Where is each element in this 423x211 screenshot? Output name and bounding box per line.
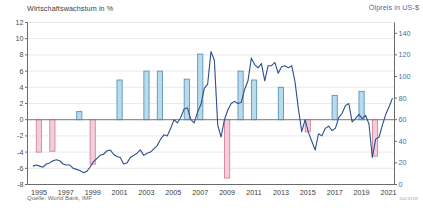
source-note: Quelle: World Bank, IMF [27,195,92,201]
y2-tick-20: 20 [399,158,407,167]
y-tick--2: -2 [17,131,23,140]
y-tick-8: 8 [20,50,24,59]
image-code: 5023169 [400,196,418,201]
y-tick-0: 0 [20,115,24,124]
chart-container: Wirtschaftswachstum in % Ölpreis in US-$… [0,0,423,211]
y2-tick-80: 80 [399,94,407,103]
y-tick-6: 6 [20,67,24,76]
y2-tick-60: 60 [399,115,407,124]
y-tick-10: 10 [16,34,24,43]
y2-tick-100: 100 [399,72,411,81]
y2-tick-120: 120 [399,50,411,59]
y-tick--6: -6 [17,164,23,173]
y-tick-4: 4 [20,83,24,92]
chart-plot-area [0,0,423,211]
y2-tick-140: 140 [399,29,411,38]
y-tick-2: 2 [20,99,24,108]
y-tick--4: -4 [17,148,23,157]
y2-tick-40: 40 [399,137,407,146]
y-tick-12: 12 [16,18,24,27]
